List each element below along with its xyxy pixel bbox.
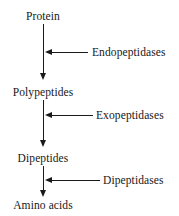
enzyme-label-dipeptidases: Dipeptidases (103, 174, 164, 186)
edge-endopeptidases-arrowhead (45, 49, 52, 55)
edge-dipeptidases-line (52, 180, 100, 181)
edge-polypeptides-to-dipeptides-arrowhead (40, 140, 46, 147)
edge-protein-to-polypeptides-arrowhead (40, 73, 46, 80)
enzyme-label-endopeptidases: Endopeptidases (92, 46, 166, 58)
enzyme-label-exopeptidases: Exopeptidases (96, 109, 164, 121)
edge-exopeptidases-line (52, 115, 93, 116)
edge-endopeptidases-line (52, 52, 88, 53)
node-label-protein: Protein (0, 10, 86, 22)
edge-dipeptides-to-aminoacids-line (43, 166, 44, 191)
node-label-dipeptides: Dipeptides (0, 152, 86, 164)
edge-polypeptides-to-dipeptides-line (43, 100, 44, 141)
edge-dipeptidases-arrowhead (45, 177, 52, 183)
node-label-polypeptides: Polypeptides (0, 86, 86, 98)
protein-digestion-diagram: Protein Polypeptides Dipeptides Amino ac… (0, 0, 179, 216)
edge-exopeptidases-arrowhead (45, 112, 52, 118)
edge-protein-to-polypeptides-line (43, 24, 44, 74)
node-label-amino-acids: Amino acids (0, 199, 86, 211)
edge-dipeptides-to-aminoacids-arrowhead (40, 190, 46, 197)
